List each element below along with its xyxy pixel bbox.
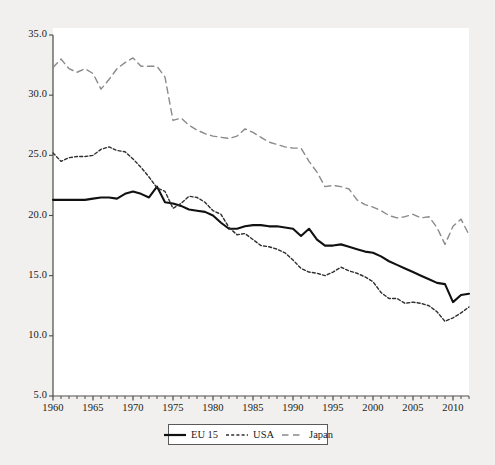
legend-label: USA — [253, 429, 274, 440]
series-line-japan — [53, 58, 469, 245]
y-tick-label: 15.0 — [9, 269, 47, 280]
series-line-usa — [53, 147, 469, 321]
legend-entry-usa: USA — [225, 429, 274, 440]
x-tick-label: 1980 — [193, 402, 233, 413]
y-tick-label: 10.0 — [9, 329, 47, 340]
x-tick-label: 1960 — [33, 402, 73, 413]
x-tick-label: 2005 — [393, 402, 433, 413]
x-tick-label: 2010 — [433, 402, 473, 413]
x-tick-label: 1970 — [113, 402, 153, 413]
x-tick-label: 1995 — [313, 402, 353, 413]
y-tick-label: 35.0 — [9, 28, 47, 39]
x-tick-label: 2000 — [353, 402, 393, 413]
y-tick-label: 5.0 — [9, 389, 47, 400]
chart-legend: EU 15USAJapan — [168, 424, 328, 445]
series-line-eu-15 — [53, 187, 469, 303]
legend-label: Japan — [309, 429, 333, 440]
x-tick-label: 1965 — [73, 402, 113, 413]
solid-line-swatch — [163, 431, 187, 439]
y-tick-label: 30.0 — [9, 88, 47, 99]
y-tick-label: 25.0 — [9, 148, 47, 159]
dashed-line-swatch — [281, 431, 305, 439]
chart-screenshot: 5.010.015.020.025.030.035.01960196519701… — [0, 0, 495, 465]
x-tick-label: 1975 — [153, 402, 193, 413]
y-tick-label: 20.0 — [9, 209, 47, 220]
dotted-line-swatch — [225, 431, 249, 439]
line-chart — [0, 0, 495, 465]
legend-entry-japan: Japan — [281, 429, 333, 440]
legend-entry-eu-15: EU 15 — [163, 429, 218, 440]
legend-label: EU 15 — [191, 429, 218, 440]
x-tick-label: 1985 — [233, 402, 273, 413]
x-tick-label: 1990 — [273, 402, 313, 413]
